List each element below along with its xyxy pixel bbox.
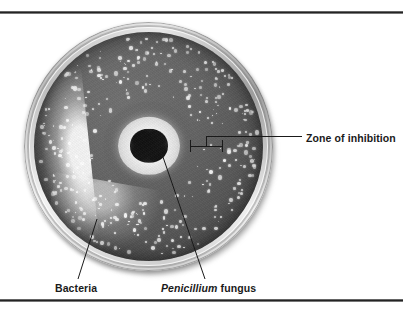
bacterial-colony [61, 152, 62, 153]
bacterial-colony [66, 119, 69, 122]
bacterial-colony [129, 46, 132, 50]
bacterial-colony [100, 74, 103, 77]
bacterial-colony [63, 126, 66, 129]
bacterial-colony [175, 225, 179, 229]
bacterial-colony [196, 68, 199, 71]
bacterial-colony [214, 206, 217, 209]
bacterial-colony [99, 195, 102, 197]
bacterial-colony [166, 245, 168, 247]
bacterial-colony [105, 75, 108, 79]
bacterial-colony [123, 67, 127, 70]
bacterial-colony [53, 175, 55, 177]
bacterial-colony [214, 83, 218, 87]
bacterial-colony [206, 97, 208, 99]
bacterial-colony [92, 108, 95, 110]
bacterial-colony [151, 47, 153, 49]
bacterial-colony [218, 175, 222, 180]
bacterial-colony [107, 242, 110, 246]
bacterial-colony [132, 211, 135, 214]
bacterial-colony [67, 152, 70, 155]
bacterial-colony [215, 205, 217, 207]
bacterial-colony [241, 189, 243, 191]
bacterial-colony [60, 189, 63, 192]
petri-dish-photograph [0, 14, 300, 299]
bacterial-colony [84, 189, 87, 192]
label-zone-of-inhibition: Zone of inhibition [306, 132, 396, 144]
bacterial-colony [227, 83, 231, 86]
bacterial-colony [215, 77, 217, 79]
bacterial-colony [243, 165, 246, 168]
bacterial-colony [58, 187, 59, 188]
bacterial-colony [211, 122, 213, 124]
bacterial-colony [71, 86, 74, 89]
bacterial-colony [245, 104, 248, 107]
bacterial-colony [253, 165, 257, 169]
bacterial-colony [198, 51, 200, 53]
agar-surface [34, 32, 263, 261]
bacterial-colony [123, 77, 125, 78]
bacterial-colony [212, 115, 213, 117]
bacterial-colony [120, 61, 121, 62]
bacterial-colony [126, 89, 128, 91]
bacterial-colony [179, 220, 182, 223]
bacterial-colony [142, 204, 144, 207]
bacterial-colony [97, 74, 101, 78]
bacterial-colony [53, 192, 57, 196]
bacterial-colony [79, 207, 82, 210]
bacterial-colony [98, 202, 99, 203]
bacterial-colony [48, 135, 50, 137]
bacterial-colony [210, 144, 212, 146]
bacterial-colony [71, 219, 75, 223]
bacterial-colony [89, 159, 91, 162]
bacterial-colony [44, 178, 47, 181]
bacterial-colony [111, 209, 112, 210]
bacterial-colony [44, 125, 45, 127]
bacterial-colony [102, 225, 105, 228]
bacterial-colony [90, 154, 93, 157]
bacterial-colony [97, 66, 101, 70]
bacterial-colony [219, 86, 220, 87]
bacterial-colony [248, 174, 252, 177]
bacterial-colony [186, 45, 190, 48]
bacterial-colony [145, 241, 147, 243]
bacterial-colony [142, 86, 145, 89]
bacterial-colony [252, 174, 254, 177]
bacterial-colony [228, 203, 230, 204]
bacterial-colony [216, 113, 217, 114]
bacterial-colony [144, 227, 147, 230]
bacterial-colony [92, 199, 94, 201]
bacterial-colony [80, 162, 84, 165]
bacterial-colony [215, 78, 217, 81]
bacterial-colony [91, 158, 93, 160]
bacterial-colony [54, 152, 56, 155]
bacterial-colony [116, 82, 117, 83]
bacterial-colony [220, 148, 222, 150]
bacterial-colony [224, 75, 226, 78]
label-penicillium-suffix: fungus [218, 282, 257, 294]
bacterial-colony [85, 97, 87, 99]
bacterial-colony [61, 149, 63, 152]
bacterial-colony [184, 195, 185, 197]
bacterial-colony [59, 182, 62, 185]
bacterial-colony [59, 150, 62, 154]
bacterial-colony [199, 86, 202, 89]
bacterial-colony [244, 110, 246, 112]
bacterial-colony [246, 109, 250, 112]
bacterial-colony [104, 220, 106, 222]
bacterial-colony [127, 78, 130, 80]
bacterial-colony [91, 69, 92, 71]
bacterial-colony [124, 63, 125, 64]
bacterial-colony [231, 77, 234, 80]
bacterial-colony [115, 188, 118, 192]
bacterial-colony [206, 169, 208, 170]
bacterial-colony [175, 194, 179, 197]
bacterial-colony [72, 124, 73, 126]
bacterial-colony [64, 74, 67, 77]
bacterial-colony [51, 192, 54, 195]
bacterial-colony [214, 216, 217, 218]
bacterial-colony [52, 146, 56, 150]
bacterial-colony [137, 234, 139, 236]
bacterial-colony [138, 219, 141, 222]
bacterial-colony [75, 77, 78, 80]
bacterial-colony [223, 159, 226, 162]
